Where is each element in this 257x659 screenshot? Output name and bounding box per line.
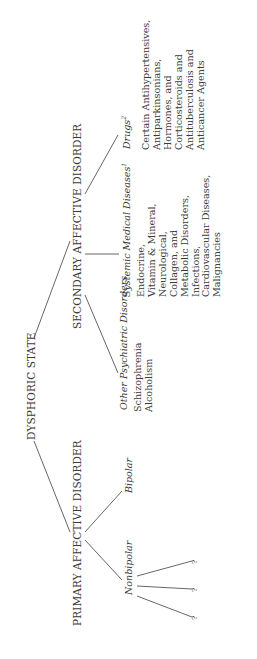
list-item: Alcoholism [144, 342, 155, 412]
node-drugs: Drugs2 [121, 116, 132, 149]
line-root-to-secondary [34, 241, 70, 338]
line-secondary-to-other-psychiatric [85, 295, 118, 373]
root-node-dysphoric-state: DYSPHORIC STATE [26, 332, 37, 440]
line-root-to-primary [34, 441, 70, 532]
node-bipolar: Bipolar [124, 458, 134, 493]
list-item: Anticancer Agents [196, 20, 207, 150]
footnote-marker: 1 [120, 163, 127, 167]
list-item: Metabolic Disorders, [180, 175, 191, 297]
line-primary-to-bipolar [85, 491, 122, 532]
drugs-list: Certain Antihypertensives, Antiparkinson… [141, 20, 206, 150]
list-item: Malignancies [212, 175, 223, 297]
other-psychiatric-list: Schizophrenia Alcoholism [133, 342, 155, 412]
node-nonbipolar: Nonbipolar [124, 541, 134, 595]
line-nonbipolar-to-q3 [137, 596, 192, 617]
list-item: Collagen, and [169, 175, 180, 297]
list-item: Antituberculosis and [185, 20, 196, 150]
node-primary-affective-disorder: PRIMARY AFFECTIVE DISORDER [72, 440, 83, 626]
node-unknown-3: ? [191, 616, 199, 620]
systemic-diseases-list: Endocrine, Vitamin & Mineral, Neurologic… [136, 175, 223, 297]
node-systemic-medical-diseases: Systemic Medical Diseases1 [121, 163, 132, 297]
systemic-label: Systemic Medical Diseases [121, 167, 132, 297]
dysphoric-state-tree-diagram: DYSPHORIC STATE PRIMARY AFFECTIVE DISORD… [0, 0, 257, 659]
line-secondary-to-drugs [85, 135, 118, 194]
line-nonbipolar-to-q1 [137, 586, 192, 589]
line-primary-to-nonbipolar [85, 540, 122, 580]
drugs-label: Drugs [121, 120, 132, 149]
line-nonbipolar-to-q2 [137, 561, 192, 576]
node-unknown-2: ? [191, 588, 199, 592]
list-item: Corticosteroids and [174, 20, 185, 150]
footnote-marker: 2 [120, 116, 127, 120]
node-secondary-affective-disorder: SECONDARY AFFECTIVE DISORDER [72, 124, 83, 329]
node-unknown-1: ? [191, 560, 199, 564]
